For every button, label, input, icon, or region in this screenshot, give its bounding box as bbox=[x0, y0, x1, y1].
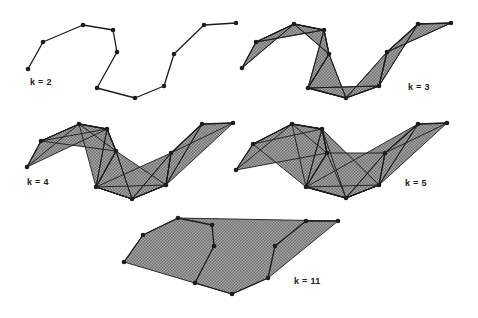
vertex-point bbox=[41, 40, 46, 45]
vertex-point bbox=[344, 196, 349, 201]
vertex-point bbox=[176, 216, 181, 221]
vertex-point bbox=[344, 96, 349, 101]
label-k4: k = 4 bbox=[27, 177, 49, 187]
vertex-point bbox=[234, 168, 239, 173]
panel-k5 bbox=[234, 121, 450, 201]
vertex-point bbox=[81, 23, 86, 28]
vertex-point bbox=[200, 122, 205, 127]
vertex-point bbox=[273, 244, 278, 249]
vertex-point bbox=[230, 292, 235, 297]
vertex-point bbox=[111, 28, 116, 33]
vertex-point bbox=[306, 86, 311, 91]
vertex-point bbox=[95, 86, 100, 91]
vertex-point bbox=[25, 165, 30, 170]
vertex-point bbox=[234, 21, 239, 26]
vertex-point bbox=[122, 260, 127, 265]
vertex-point bbox=[449, 21, 454, 26]
vertex-point bbox=[445, 121, 450, 126]
vertex-point bbox=[290, 122, 295, 127]
vertex-point bbox=[304, 185, 309, 190]
vertex-point bbox=[130, 197, 135, 202]
vertex-point bbox=[304, 219, 309, 224]
vertex-point bbox=[240, 66, 245, 71]
vertex-point bbox=[385, 50, 390, 55]
vertex-point bbox=[202, 23, 207, 28]
panel-k2 bbox=[26, 21, 239, 101]
vertex-point bbox=[292, 22, 297, 27]
vertex-point bbox=[320, 127, 325, 132]
vertex-point bbox=[383, 151, 388, 156]
vertex-point bbox=[266, 276, 271, 281]
vertex-point bbox=[114, 149, 119, 154]
vertex-point bbox=[416, 122, 421, 127]
vertex-point bbox=[212, 244, 217, 249]
k-hull-diagram bbox=[0, 0, 478, 318]
vertex-point bbox=[251, 142, 256, 147]
vertex-point bbox=[115, 50, 120, 55]
vertex-point bbox=[169, 151, 174, 156]
label-k5: k = 5 bbox=[405, 178, 427, 188]
vertex-point bbox=[322, 28, 327, 33]
vertex-point bbox=[325, 151, 330, 156]
vertex-point bbox=[377, 84, 382, 89]
vertex-point bbox=[193, 281, 198, 286]
label-k11: k = 11 bbox=[294, 276, 321, 286]
vertex-point bbox=[377, 183, 382, 188]
vertex-point bbox=[105, 127, 110, 132]
vertex-point bbox=[164, 183, 169, 188]
vertex-point bbox=[26, 67, 31, 72]
vertex-point bbox=[162, 84, 167, 89]
vertex-point bbox=[210, 223, 215, 228]
label-k2: k = 2 bbox=[30, 77, 52, 87]
vertex-point bbox=[327, 52, 332, 57]
vertex-point bbox=[141, 233, 146, 238]
vertex-point bbox=[254, 40, 259, 45]
vertex-point bbox=[77, 122, 82, 127]
label-k3: k = 3 bbox=[408, 82, 430, 92]
vertex-point bbox=[172, 52, 177, 57]
vertex-point bbox=[231, 121, 236, 126]
vertex-point bbox=[133, 96, 138, 101]
vertex-point bbox=[416, 22, 421, 27]
vertex-point bbox=[94, 185, 99, 190]
panel-k4 bbox=[25, 121, 236, 202]
vertex-point bbox=[39, 139, 44, 144]
vertex-point bbox=[336, 219, 341, 224]
